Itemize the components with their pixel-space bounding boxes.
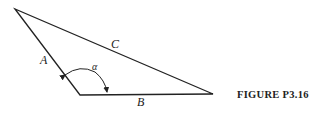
triangle (15, 9, 213, 95)
figure-caption: FIGURE P3.16 (237, 90, 309, 101)
angle-alpha-arc (65, 69, 107, 92)
side-label-b: B (137, 96, 144, 108)
side-label-c: C (111, 38, 119, 50)
angle-label-alpha: α (92, 62, 97, 72)
side-label-a: A (40, 54, 47, 66)
